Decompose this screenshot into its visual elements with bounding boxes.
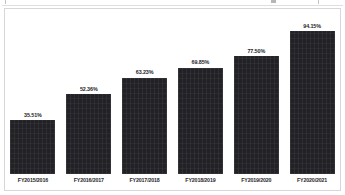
bar-group[interactable]: 69.85% <box>178 68 223 174</box>
bar-category-label: FY2018/2019 <box>185 177 215 184</box>
bar-value-label: 77.50% <box>247 48 265 55</box>
bar-value-label: 94.15% <box>303 23 321 30</box>
bar-rect[interactable] <box>178 68 223 174</box>
bar-value-label: 52.36% <box>80 86 98 93</box>
bar-rect[interactable] <box>290 31 335 174</box>
bar-rect[interactable] <box>10 120 55 174</box>
bar-category-label: FY2020/2021 <box>297 177 327 184</box>
bar-group[interactable]: 35.51% <box>10 120 55 174</box>
bar-category-label: FY2016/2017 <box>74 177 104 184</box>
bar-group[interactable]: 77.50% <box>234 56 279 174</box>
plot-area: 35.51%FY2015/201652.36%FY2016/201763.23%… <box>5 9 340 190</box>
bar-value-label: 69.85% <box>192 59 210 66</box>
bar-group[interactable]: 94.15% <box>290 31 335 174</box>
bar-value-label: 63.23% <box>136 69 154 76</box>
bar-category-label: FY2015/2016 <box>18 177 48 184</box>
scan-edge-artifact <box>0 0 345 7</box>
bar-category-label: FY2017/2018 <box>129 177 159 184</box>
bar-value-label: 35.51% <box>24 112 42 119</box>
bar-rect[interactable] <box>66 94 111 174</box>
bar-chart: 35.51%FY2015/201652.36%FY2016/201763.23%… <box>4 8 341 191</box>
bar-rect[interactable] <box>122 78 167 174</box>
bar-category-label: FY2019/2020 <box>241 177 271 184</box>
bar-group[interactable]: 63.23% <box>122 78 167 174</box>
bar-rect[interactable] <box>234 56 279 174</box>
bar-group[interactable]: 52.36% <box>66 94 111 174</box>
